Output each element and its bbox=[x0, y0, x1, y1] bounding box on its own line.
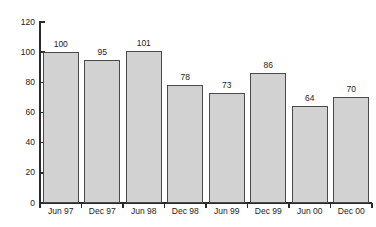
y-tick-label-40: 40 bbox=[7, 138, 35, 147]
bar-value-label-0: 100 bbox=[43, 40, 79, 49]
x-axis-label-0: Jun 97 bbox=[40, 207, 82, 216]
bar-jun-00 bbox=[292, 106, 328, 203]
y-tick-label-100: 100 bbox=[7, 48, 35, 57]
y-tick-label-20: 20 bbox=[7, 168, 35, 177]
x-axis-label-6: Jun 00 bbox=[289, 207, 331, 216]
bar-dec-99 bbox=[250, 73, 286, 203]
bar-chart: 020406080100120 100951017873866470 Jun 9… bbox=[0, 0, 376, 227]
x-axis-label-5: Dec 99 bbox=[248, 207, 290, 216]
bar-dec-00 bbox=[333, 97, 369, 203]
x-axis-label-3: Dec 98 bbox=[165, 207, 207, 216]
bar-value-label-6: 64 bbox=[292, 94, 328, 103]
y-tick-label-120: 120 bbox=[7, 18, 35, 27]
x-axis-label-2: Jun 98 bbox=[123, 207, 165, 216]
bar-jun-97 bbox=[43, 52, 79, 203]
bar-value-label-5: 86 bbox=[250, 61, 286, 70]
bar-value-label-4: 73 bbox=[209, 81, 245, 90]
x-axis-label-4: Jun 99 bbox=[206, 207, 248, 216]
bar-value-label-2: 101 bbox=[126, 39, 162, 48]
bar-jun-99 bbox=[209, 93, 245, 203]
bar-dec-97 bbox=[84, 60, 120, 203]
bar-value-label-1: 95 bbox=[84, 48, 120, 57]
y-tick-label-60: 60 bbox=[7, 108, 35, 117]
y-tick-label-0: 0 bbox=[7, 199, 35, 208]
y-tick-label-80: 80 bbox=[7, 78, 35, 87]
x-axis-label-7: Dec 00 bbox=[331, 207, 373, 216]
bar-dec-98 bbox=[167, 85, 203, 203]
bar-value-label-3: 78 bbox=[167, 73, 203, 82]
x-axis-label-1: Dec 97 bbox=[82, 207, 124, 216]
bar-jun-98 bbox=[126, 51, 162, 203]
bar-value-label-7: 70 bbox=[333, 85, 369, 94]
